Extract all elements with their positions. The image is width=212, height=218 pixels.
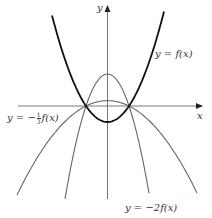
fraction-denominator: 3 [37, 119, 41, 125]
label-neg-third-suffix: f(x) [42, 112, 59, 123]
label-neg-2f: y = −2f(x) [125, 203, 177, 213]
y-axis-label: y [97, 3, 103, 13]
graph-canvas [0, 0, 212, 218]
graph-figure: y x y = f(x) y = −13f(x) y = −2f(x) [0, 0, 212, 218]
label-neg-third-f: y = −13f(x) [7, 112, 59, 125]
label-neg-third-prefix: y = − [7, 112, 36, 123]
fraction-one-third: 13 [37, 112, 41, 125]
x-axis-label: x [197, 111, 203, 121]
label-f: y = f(x) [155, 49, 193, 59]
